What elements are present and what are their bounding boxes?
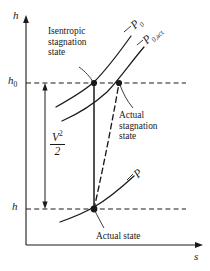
kinetic-energy-velocity-symbol: V [52, 131, 59, 143]
hs-diagram-figure: h s h0 h P0 P0,act P Isentropic stagnati… [0, 0, 210, 271]
annotation-actual-stagnation-line-1: Actual [119, 110, 158, 121]
kinetic-energy-numerator: V2 [50, 130, 65, 145]
kinetic-energy-dimension-arrow [42, 83, 47, 209]
tick-label-h0-subscript: 0 [14, 80, 18, 89]
actual-state-leader-line [95, 211, 104, 228]
isentropic-leader-line [79, 67, 93, 82]
kinetic-energy-exponent: 2 [59, 129, 63, 138]
p0-label-leader [124, 26, 131, 32]
annotation-actual-stagnation-line-2: stagnation [119, 121, 158, 132]
kinetic-energy-label: V2 2 [50, 130, 65, 158]
tick-label-h: h [12, 200, 18, 212]
x-axis-label: s [194, 250, 198, 262]
x-axis [26, 242, 203, 248]
tick-label-h0: h0 [8, 74, 17, 90]
point-isentropic-stagnation-state [91, 80, 97, 86]
y-axis [23, 15, 29, 245]
annotation-isentropic-line-1: Isentropic [48, 26, 87, 37]
annotation-actual-stagnation-state: Actual stagnation state [119, 110, 158, 142]
y-axis-label: h [13, 9, 19, 21]
p0act-label-leader [137, 40, 143, 45]
annotation-actual-stagnation-line-3: state [119, 131, 158, 142]
annotation-isentropic-line-2: stagnation [48, 37, 87, 48]
annotation-isentropic-stagnation-state: Isentropic stagnation state [48, 26, 87, 58]
point-actual-state [91, 206, 98, 213]
actual-stagnation-leader-line [120, 85, 133, 108]
actual-process-line [94, 83, 119, 209]
annotation-isentropic-line-3: state [48, 47, 87, 58]
point-actual-stagnation-state [116, 80, 122, 86]
annotation-actual-state: Actual state [96, 231, 141, 242]
kinetic-energy-denominator: 2 [50, 145, 65, 158]
